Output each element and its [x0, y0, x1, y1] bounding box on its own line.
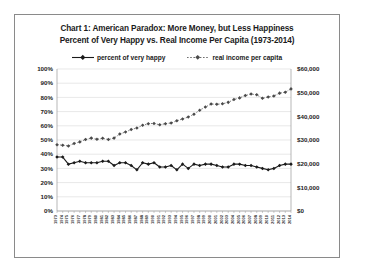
x-axis-year-label: 1981 [99, 214, 104, 224]
series-marker [61, 143, 65, 147]
series-marker [84, 161, 88, 165]
series-marker [101, 160, 105, 164]
y-axis-right-tick-label: $20,000 [297, 160, 320, 167]
series-marker [284, 162, 288, 166]
x-axis-year-label: 1993 [167, 214, 172, 224]
series-marker [55, 155, 59, 159]
x-axis-year-label: 1986 [127, 214, 132, 224]
chart-container: Chart 1: American Paradox: More Money, b… [14, 14, 340, 258]
x-axis-year-label: 1976 [70, 214, 75, 224]
x-axis-year-label: 1997 [190, 214, 195, 224]
y-axis-left-tick-label: 60% [41, 122, 54, 129]
series-marker [249, 92, 253, 96]
series-marker [67, 144, 71, 148]
series-marker [72, 142, 76, 146]
series-marker [147, 162, 151, 166]
x-axis-year-label: 2007 [247, 214, 252, 224]
x-axis-year-label: 1999 [201, 214, 206, 224]
x-axis-year-label: 2001 [213, 214, 218, 224]
series-marker [289, 162, 293, 166]
x-axis-year-label: 2012 [276, 214, 281, 224]
series-marker [221, 102, 225, 106]
series-marker [129, 128, 133, 132]
series-marker [164, 122, 168, 126]
plot-area-wrapper: 0%10%20%30%40%50%60%70%80%90%100%$0$10,0… [15, 65, 339, 255]
series-marker [238, 162, 242, 166]
series-marker [181, 117, 185, 121]
x-axis-year-label: 1975 [64, 214, 69, 224]
y-axis-right-tick-label: $40,000 [297, 113, 320, 120]
legend-item-real-income-per-capita[interactable]: real income per capita [187, 54, 282, 61]
x-axis-year-label: 1984 [116, 214, 121, 224]
chart-title-line-2: Percent of Very Happy vs. Real Income Pe… [15, 35, 339, 47]
x-axis-year-label: 2013 [281, 214, 286, 224]
legend-swatch-solid-icon [72, 54, 94, 61]
x-axis-year-label: 1973 [53, 214, 58, 224]
chart-plot: 0%10%20%30%40%50%60%70%80%90%100%$0$10,0… [15, 65, 339, 255]
series-marker [55, 143, 59, 147]
x-axis-year-label: 2002 [219, 214, 224, 224]
series-marker [84, 138, 88, 142]
series-marker [272, 167, 276, 171]
x-axis-year-label: 1987 [133, 214, 138, 224]
series-marker [175, 119, 179, 123]
y-axis-right-tick-label: $50,000 [297, 89, 320, 96]
series-marker [169, 121, 173, 125]
series-marker [209, 162, 213, 166]
series-marker [266, 95, 270, 99]
legend-label-percent-very-happy: percent of very happy [97, 54, 166, 61]
series-marker [204, 162, 208, 166]
chart-title-block: Chart 1: American Paradox: More Money, b… [15, 15, 339, 47]
series-marker [226, 101, 230, 105]
x-axis-year-label: 2010 [264, 214, 269, 224]
series-marker [232, 98, 236, 102]
x-axis-year-label: 1989 [144, 214, 149, 224]
series-marker [278, 164, 282, 168]
x-axis-year-label: 1974 [59, 214, 64, 224]
x-axis-year-label: 1994 [173, 214, 178, 224]
y-axis-right-tick-label: $0 [297, 207, 304, 214]
series-marker [89, 161, 93, 165]
series-marker [147, 122, 151, 126]
x-axis-year-label: 2011 [270, 214, 275, 224]
y-axis-left-tick-label: 30% [41, 165, 54, 172]
legend-item-percent-very-happy[interactable]: percent of very happy [72, 54, 166, 61]
series-marker [78, 160, 82, 164]
series-marker [152, 122, 156, 126]
y-axis-left-tick-label: 40% [41, 150, 54, 157]
series-marker [107, 138, 111, 142]
series-marker [95, 161, 99, 165]
series-marker [238, 96, 242, 100]
series-marker [135, 126, 139, 130]
y-axis-left-tick-label: 50% [41, 136, 54, 143]
x-axis-year-label: 2009 [258, 214, 263, 224]
x-axis-year-label: 1979 [87, 214, 92, 224]
y-axis-right-tick-label: $60,000 [297, 65, 320, 72]
x-axis-year-label: 1992 [161, 214, 166, 224]
x-axis-year-label: 2005 [236, 214, 241, 224]
series-marker [186, 115, 190, 119]
x-axis-year-label: 1991 [156, 214, 161, 224]
x-axis-year-label: 2003 [224, 214, 229, 224]
x-axis-year-label: 1977 [76, 214, 81, 224]
y-axis-left-tick-label: 10% [41, 193, 54, 200]
series-marker [209, 102, 213, 106]
x-axis-year-label: 2000 [207, 214, 212, 224]
x-axis-year-label: 1985 [121, 214, 126, 224]
series-marker [249, 164, 253, 168]
legend-swatch-dotted-icon [187, 54, 209, 61]
x-axis-year-label: 1988 [139, 214, 144, 224]
legend-label-real-income-per-capita: real income per capita [212, 54, 282, 61]
chart-title-line-1: Chart 1: American Paradox: More Money, b… [15, 23, 339, 35]
y-axis-left-tick-label: 0% [44, 207, 53, 214]
x-axis-year-label: 2008 [253, 214, 258, 224]
series-marker [215, 164, 219, 168]
series-marker [95, 138, 99, 142]
x-axis-year-label: 1983 [110, 214, 115, 224]
series-marker [232, 162, 236, 166]
series-marker [261, 167, 265, 171]
series-marker [278, 91, 282, 95]
series-marker [244, 94, 248, 98]
x-axis-year-label: 1982 [104, 214, 109, 224]
x-axis-year-label: 1998 [196, 214, 201, 224]
